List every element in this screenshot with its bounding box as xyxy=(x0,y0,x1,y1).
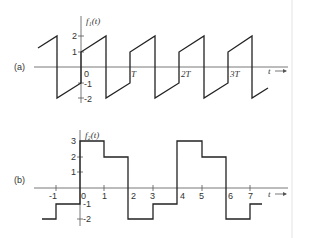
x-tick-label: 3 xyxy=(150,191,155,201)
y-tick-label: 1 xyxy=(72,47,77,57)
x-tick-label: 6 xyxy=(228,191,233,201)
y-tick-label: -1 xyxy=(84,79,92,89)
waveform-diagram: (a) t f₁(t) 2 1 -1 -2 0 T 2T 3T (b) t xyxy=(0,0,309,238)
x-tick-label: 0 xyxy=(84,69,89,79)
x-tick-label: 2 xyxy=(131,191,136,201)
y-tick-label: -2 xyxy=(84,94,92,104)
y-tick-label: 3 xyxy=(71,136,76,146)
panel-a-t-label: t xyxy=(268,66,271,76)
panel-a-label: (a) xyxy=(14,62,25,72)
x-tick-label: 1 xyxy=(102,191,107,201)
panel-b-arrowhead-icon xyxy=(283,192,287,196)
x-tick-label: 2T xyxy=(181,69,192,79)
panel-b-label: (b) xyxy=(14,175,25,185)
panel-a-function-label: f₁(t) xyxy=(86,16,100,26)
panel-b: (b) t f₂(t) 3 2 1 -1 -2 -1 0 1 2 3 4 5 6… xyxy=(14,130,288,226)
panel-a: (a) t f₁(t) 2 1 -1 -2 0 T 2T 3T xyxy=(14,16,288,104)
y-tick-label: 2 xyxy=(72,31,77,41)
panel-b-t-label: t xyxy=(268,189,271,199)
x-tick-label: 0 xyxy=(81,191,86,201)
x-tick-label: T xyxy=(131,69,137,79)
panel-b-function-label: f₂(t) xyxy=(85,130,99,140)
x-tick-label: 7 xyxy=(248,191,253,201)
y-tick-label: 2 xyxy=(71,152,76,162)
panel-a-arrowhead-icon xyxy=(283,69,287,73)
y-tick-label: -2 xyxy=(83,214,91,224)
x-tick-label: 5 xyxy=(199,191,204,201)
y-tick-label: 1 xyxy=(71,167,76,177)
x-tick-label: -1 xyxy=(49,191,57,201)
x-tick-label: 3T xyxy=(229,69,241,79)
x-tick-label: 4 xyxy=(180,191,185,201)
